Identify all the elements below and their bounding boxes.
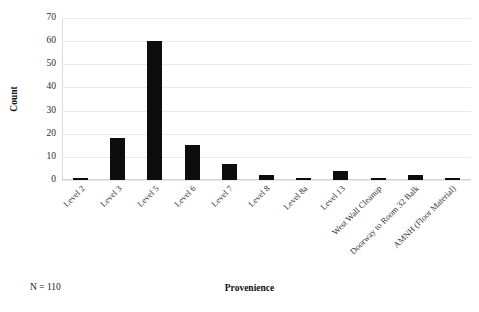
bar[interactable] (371, 178, 386, 180)
x-axis-title: Provenience (0, 283, 479, 293)
x-axis-tick-label: Level 3 (98, 182, 125, 209)
bar[interactable] (147, 41, 162, 180)
y-axis-tick-label: 60 (47, 36, 57, 46)
y-axis-tick-label: 20 (47, 129, 57, 139)
chart-figure: Count 010203040506070 Level 2Level 3Leve… (0, 0, 479, 312)
x-axis-tick-label: AMNH (Floor Material) (392, 182, 460, 250)
x-axis-tick-label: Level 6 (172, 182, 199, 209)
y-axis-tick-label: 30 (47, 106, 57, 116)
x-axis-title-text: Provenience (225, 283, 274, 293)
x-axis-tick-label: Level 5 (135, 182, 162, 209)
bar-slot (285, 18, 322, 180)
y-axis-tick-label: 0 (51, 175, 56, 185)
bar-series (62, 18, 471, 180)
y-axis-tick-label: 40 (47, 83, 57, 93)
bar-slot (136, 18, 173, 180)
bar[interactable] (333, 171, 348, 180)
x-axis-tick-label: Level 13 (318, 182, 348, 212)
bar[interactable] (296, 178, 311, 180)
bar-slot (99, 18, 136, 180)
bar-slot (322, 18, 359, 180)
bar[interactable] (110, 138, 125, 180)
bar-slot (397, 18, 434, 180)
bar-slot (62, 18, 99, 180)
x-axis-tick-labels: Level 2Level 3Level 5Level 6Level 7Level… (62, 182, 471, 282)
x-axis-tick-label: Level 7 (210, 182, 237, 209)
y-axis-title: Count (9, 86, 19, 111)
plot-area: 010203040506070 (62, 18, 471, 180)
bar[interactable] (408, 175, 423, 180)
x-axis-tick-label: Level 8 (247, 182, 274, 209)
gridline (62, 180, 471, 181)
y-axis-tick-label: 50 (47, 60, 57, 70)
x-axis-tick-label: Level 2 (61, 182, 88, 209)
bar[interactable] (445, 178, 460, 180)
x-axis-tick-label: Level 8a (281, 182, 311, 212)
y-axis-tick-label: 10 (47, 152, 57, 162)
bar-slot (360, 18, 397, 180)
bar[interactable] (73, 178, 88, 180)
bar-slot (434, 18, 471, 180)
bar-slot (211, 18, 248, 180)
bar-slot (248, 18, 285, 180)
y-axis-tick-label: 70 (47, 13, 57, 23)
bar[interactable] (222, 164, 237, 180)
bar[interactable] (259, 175, 274, 180)
bar[interactable] (185, 145, 200, 180)
x-axis-tick-label: Doorway to Room 32 Balk (348, 182, 422, 256)
bar-slot (174, 18, 211, 180)
